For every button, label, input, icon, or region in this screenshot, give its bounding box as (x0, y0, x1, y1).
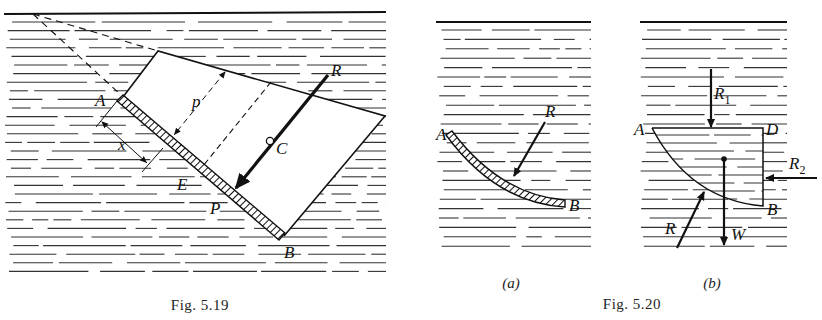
label-R: R (544, 102, 556, 121)
dashed-extension-top (33, 14, 158, 51)
label-R1: R1 (713, 84, 730, 107)
force-R-arrow (677, 192, 704, 248)
label-B: B (284, 243, 295, 262)
figure-caption: Fig. 5.20 (603, 296, 661, 312)
label-R2: R2 (788, 154, 805, 177)
dashed-extension-side (33, 14, 121, 95)
label-D: D (765, 120, 779, 139)
label-A: A (633, 120, 645, 139)
label-B: B (767, 200, 778, 219)
label-E: E (176, 175, 188, 194)
centroid-point-C (266, 137, 273, 144)
figure-caption: Fig. 5.19 (171, 297, 229, 313)
label-R: R (664, 219, 676, 238)
subfigure-label-a: (a) (502, 275, 520, 292)
label-P: P (209, 199, 220, 218)
figure-5-19: R A p C x E P B Fig. 5.19 (4, 12, 386, 313)
label-C: C (276, 139, 288, 158)
water-lines (437, 30, 591, 246)
figure-5-20b: R1 A D R2 B R W (b) (633, 22, 817, 292)
label-x: x (117, 135, 126, 154)
label-A: A (94, 91, 106, 110)
free-surface-line (4, 12, 386, 14)
label-R: R (330, 61, 342, 80)
label-p: p (191, 92, 201, 111)
diagram-canvas: R A p C x E P B Fig. 5.19 A R B (a) R1 A (0, 0, 822, 320)
label-W: W (731, 225, 747, 244)
subfigure-label-b: (b) (703, 275, 721, 292)
resultant-force-arrow (514, 122, 545, 176)
label-A: A (435, 125, 447, 144)
figure-5-20a: A R B (a) (435, 22, 591, 292)
label-B: B (569, 196, 580, 215)
